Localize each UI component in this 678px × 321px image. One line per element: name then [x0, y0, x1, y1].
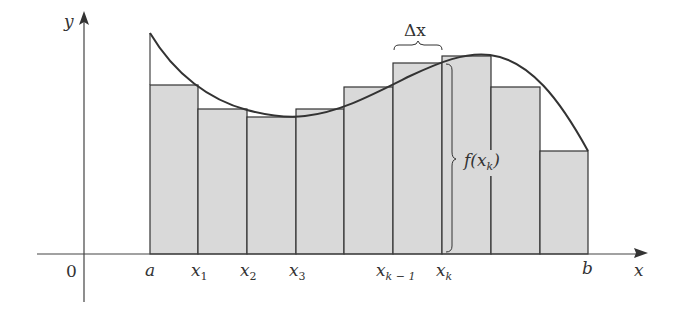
tick-label-b: b	[582, 258, 593, 278]
x-axis-label: x	[634, 260, 644, 280]
rectangle-4	[296, 109, 344, 254]
tick-label-x2: x2	[240, 260, 257, 283]
tick-label-a: a	[145, 260, 155, 280]
origin-label: 0	[66, 261, 77, 281]
tick-label-x1: x1	[191, 260, 208, 283]
rectangle-2	[198, 109, 247, 254]
delta-x-brace	[394, 41, 442, 50]
rectangle-9	[540, 151, 588, 254]
delta-x-label: Δx	[404, 20, 426, 40]
rectangle-5	[344, 87, 393, 254]
rectangle-1	[150, 85, 198, 254]
riemann-rectangles	[150, 56, 588, 254]
rectangle-8	[491, 87, 540, 254]
tick-label-xk: xk	[436, 260, 453, 283]
rectangle-3	[247, 117, 296, 254]
riemann-sum-diagram: y x 0 a x1 x2 x3 xk − 1 xk b Δx f(xk)	[0, 0, 678, 321]
tick-label-xk-minus-1: xk − 1	[376, 260, 415, 283]
tick-label-x3: x3	[289, 260, 306, 283]
x-axis-arrow-icon	[634, 248, 648, 258]
f-xk-label: f(xk)	[462, 150, 500, 173]
rectangle-k-minus-1	[393, 63, 442, 254]
y-axis-label: y	[63, 11, 74, 31]
